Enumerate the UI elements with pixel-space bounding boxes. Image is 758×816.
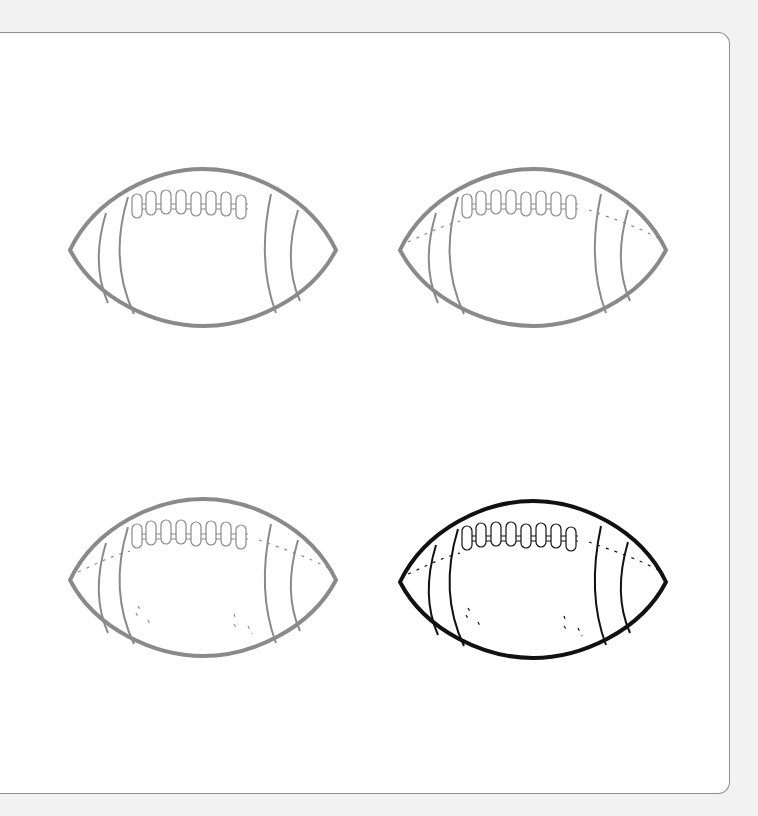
football-icon bbox=[396, 166, 670, 330]
football-step-2: Step 2 bbox=[396, 166, 670, 330]
football-step-1: Step 1 bbox=[66, 166, 340, 330]
football-icon bbox=[396, 498, 670, 662]
football-step-3: Step 3 bbox=[66, 496, 340, 660]
football-icon bbox=[66, 496, 340, 660]
football-step-4: Step 4 bbox=[396, 498, 670, 662]
football-icon bbox=[66, 166, 340, 330]
drawing-panel bbox=[0, 32, 730, 794]
